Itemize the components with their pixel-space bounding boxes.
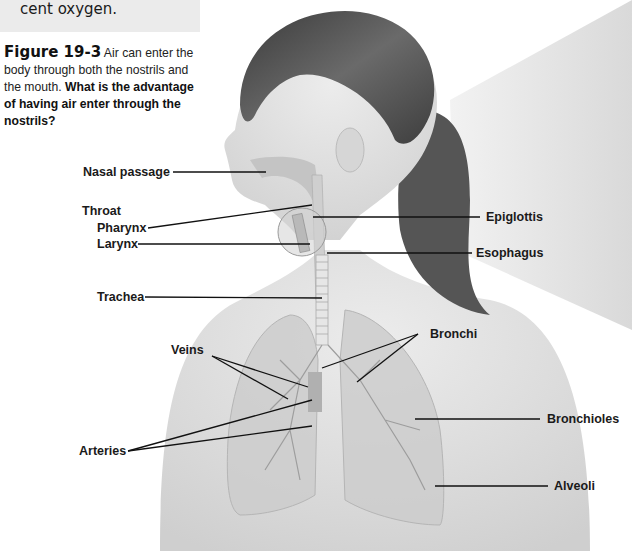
label-epiglottis: Epiglottis (486, 210, 543, 224)
respiratory-illustration (0, 0, 632, 551)
pulmonary-vessels (308, 372, 322, 412)
label-nasal-passage: Nasal passage (83, 165, 170, 179)
label-veins: Veins (171, 343, 204, 357)
ear (336, 128, 364, 172)
label-esophagus: Esophagus (476, 246, 543, 260)
trachea (316, 255, 328, 345)
label-throat: Throat (82, 204, 121, 218)
magnification-beam (450, 0, 632, 330)
label-larynx: Larynx (97, 237, 138, 251)
label-arteries: Arteries (79, 444, 126, 458)
label-trachea: Trachea (97, 290, 144, 304)
label-bronchi: Bronchi (430, 327, 477, 341)
label-alveoli: Alveoli (554, 479, 595, 493)
label-pharynx: Pharynx (97, 221, 146, 235)
label-bronchioles: Bronchioles (547, 412, 619, 426)
